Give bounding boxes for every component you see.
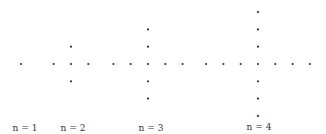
dot: [257, 11, 259, 13]
dot: [257, 63, 259, 65]
dot: [205, 63, 207, 65]
dot: [257, 98, 259, 100]
dot: [147, 28, 149, 30]
dot: [240, 63, 242, 65]
dot-pattern-figure: n = 1 n = 2 n = 3 n = 4: [0, 0, 326, 134]
dot: [20, 63, 22, 65]
dot: [164, 63, 166, 65]
label-n4: n = 4: [247, 122, 272, 132]
dot: [147, 63, 149, 65]
dot: [147, 80, 149, 82]
dot: [70, 63, 72, 65]
label-n3: n = 3: [139, 123, 164, 133]
dot: [257, 115, 259, 117]
dot: [70, 80, 72, 82]
dot: [87, 63, 89, 65]
dot: [292, 63, 294, 65]
dot-cross-n3: [112, 28, 183, 99]
label-n2: n = 2: [61, 123, 86, 133]
dot: [182, 63, 184, 65]
dot: [257, 28, 259, 30]
dot: [147, 98, 149, 100]
dot: [257, 80, 259, 82]
dot: [309, 63, 311, 65]
dot: [70, 46, 72, 48]
dot: [257, 46, 259, 48]
dot: [112, 63, 114, 65]
dot-cross-n4: [205, 11, 311, 117]
dot: [130, 63, 132, 65]
dot: [147, 46, 149, 48]
dot: [274, 63, 276, 65]
dot-cross-n1: [20, 63, 22, 65]
dot: [53, 63, 55, 65]
dot-cross-n2: [53, 46, 90, 83]
dot: [222, 63, 224, 65]
label-n1: n = 1: [13, 123, 38, 133]
